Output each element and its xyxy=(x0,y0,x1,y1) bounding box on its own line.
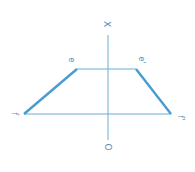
label-e-prime: e' xyxy=(137,56,146,63)
label-e: e xyxy=(67,58,76,63)
label-f-prime: f' xyxy=(176,115,185,120)
label-o: O xyxy=(103,143,113,150)
label-f: f xyxy=(10,113,19,116)
projection-diagram: X O e e' f f' xyxy=(0,0,195,172)
right-edge-e-prime-f-prime xyxy=(136,69,171,114)
label-x: X xyxy=(102,21,112,27)
left-edge-e-f xyxy=(24,69,77,114)
